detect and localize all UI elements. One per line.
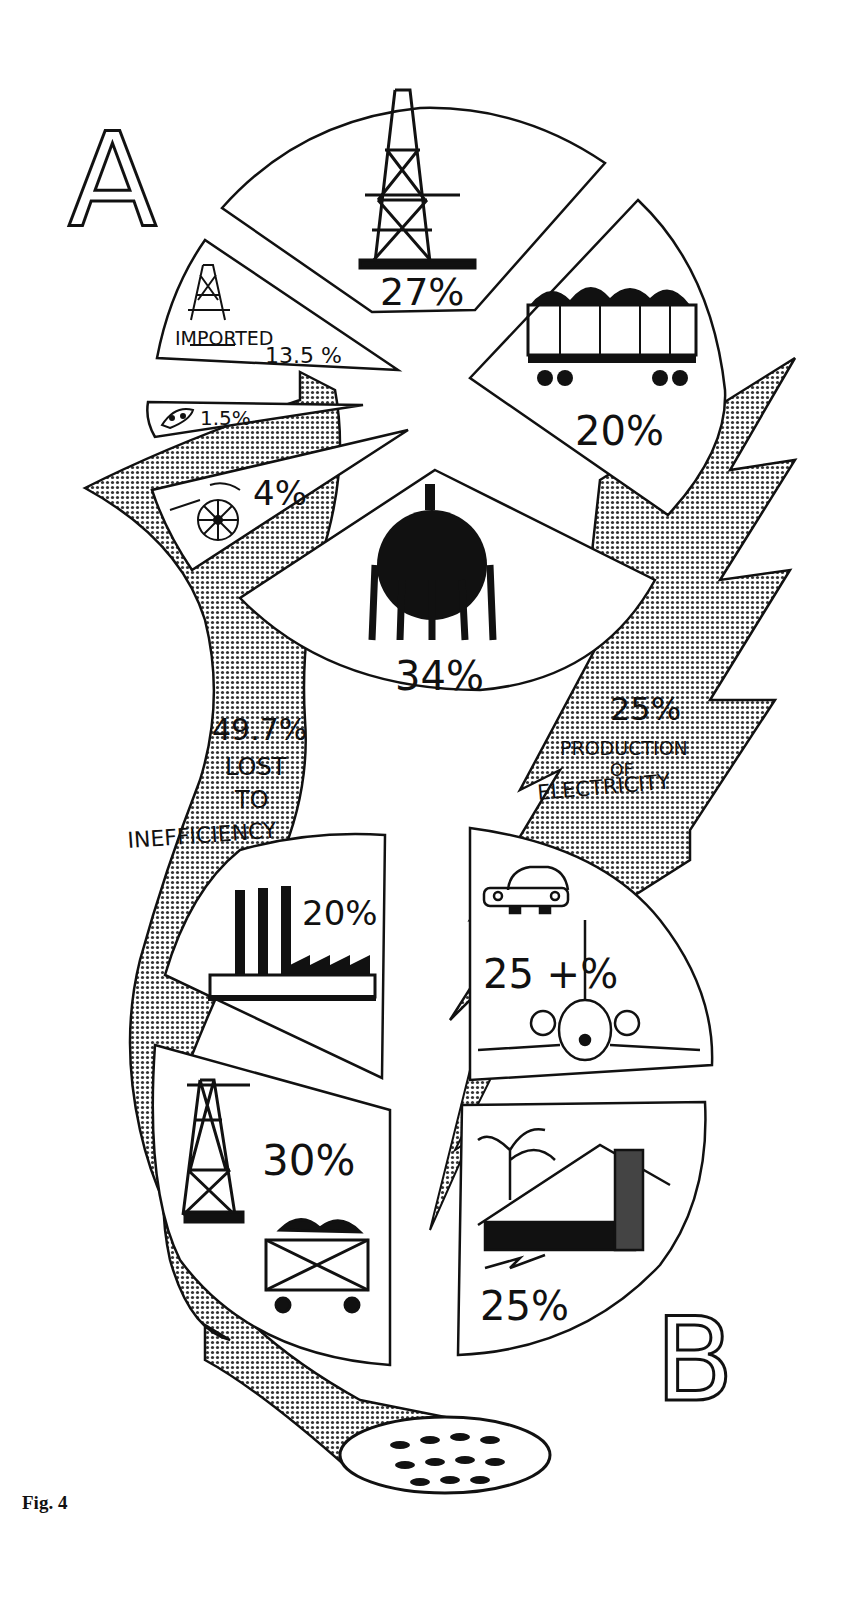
drain-icon — [340, 1417, 550, 1493]
hydro-value: 4% — [253, 473, 307, 513]
electricity-line1: PRODUCTION — [560, 737, 688, 759]
electricity-value: 25% — [610, 690, 681, 728]
gas-value: 34% — [395, 653, 484, 699]
mining-value: 30% — [262, 1136, 355, 1185]
loss-value: 49.7% — [212, 712, 307, 747]
homes-value: 25% — [480, 1283, 569, 1329]
energy-flow-diagram: A B 27% 20% 34% 4% 1.5% IMPORTED 13.5 % … — [0, 0, 867, 1617]
coal-value: 20% — [575, 408, 664, 454]
loss-line2: TO — [234, 786, 269, 814]
oil-value: 27% — [380, 270, 464, 314]
nuclear-value: 1.5% — [200, 406, 251, 430]
slice-mining-30 — [153, 1045, 390, 1365]
transport-value: 25 +% — [483, 951, 618, 997]
diagram-canvas: A B 27% 20% 34% 4% 1.5% IMPORTED 13.5 % … — [0, 0, 867, 1617]
loss-line1: LOST — [225, 753, 287, 781]
figure-caption: Fig. 4 — [22, 1492, 67, 1514]
industry-value: 20% — [302, 893, 378, 933]
section-b-letter: B — [655, 1293, 734, 1427]
imported-label: IMPORTED — [175, 327, 273, 349]
imported-value: 13.5 % — [265, 343, 342, 368]
section-a-letter: A — [68, 104, 157, 256]
